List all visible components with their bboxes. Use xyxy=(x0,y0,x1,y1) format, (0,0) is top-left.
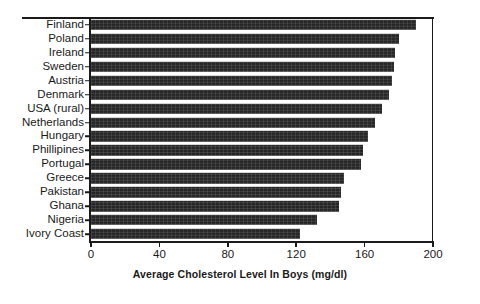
x-tick-label: 80 xyxy=(221,249,234,261)
category-label: Austria xyxy=(48,75,84,87)
category-label: Greece xyxy=(46,173,84,185)
category-label: Nigeria xyxy=(48,214,84,226)
bar-row: Ireland xyxy=(0,46,480,60)
bar xyxy=(91,103,382,113)
bar xyxy=(91,20,416,30)
bar xyxy=(91,215,317,225)
bar-row: Finland xyxy=(0,18,480,32)
bar-row: Ghana xyxy=(0,199,480,213)
cholesterol-bar-chart: FinlandPolandIrelandSwedenAustriaDenmark… xyxy=(0,0,480,304)
bar-row: USA (rural) xyxy=(0,102,480,116)
x-tick-mark xyxy=(227,241,229,247)
category-label: Portugal xyxy=(41,159,84,171)
bar xyxy=(91,117,375,127)
bar xyxy=(91,145,363,155)
category-label: Ireland xyxy=(49,47,84,59)
bar xyxy=(91,187,341,197)
bar-row: Pakistan xyxy=(0,185,480,199)
bar xyxy=(91,34,399,44)
x-tick-label: 120 xyxy=(287,249,306,261)
bar-row: Phillipines xyxy=(0,143,480,157)
x-tick-mark xyxy=(295,241,297,247)
bar-row: Austria xyxy=(0,74,480,88)
x-tick-label: 200 xyxy=(423,249,442,261)
bar-row: Nigeria xyxy=(0,213,480,227)
x-tick-mark xyxy=(364,241,366,247)
bar xyxy=(91,201,339,211)
x-tick-mark xyxy=(90,241,92,247)
bar-row: Ivory Coast xyxy=(0,227,480,241)
bar xyxy=(91,159,361,169)
category-label: Netherlands xyxy=(22,117,84,129)
bar-row: Denmark xyxy=(0,88,480,102)
category-label: Hungary xyxy=(41,131,84,143)
category-label: Poland xyxy=(48,33,84,45)
x-tick-label: 0 xyxy=(88,249,94,261)
x-axis-title: Average Cholesterol Level In Boys (mg/dl… xyxy=(0,268,480,280)
category-label: Ghana xyxy=(49,200,84,212)
x-tick-label: 160 xyxy=(355,249,374,261)
category-label: Sweden xyxy=(42,61,84,73)
bar xyxy=(91,173,344,183)
bar xyxy=(91,229,300,239)
category-label: Ivory Coast xyxy=(26,228,84,240)
bar-row: Netherlands xyxy=(0,116,480,130)
x-axis-ticks: 04080120160200 xyxy=(0,241,480,265)
bar xyxy=(91,76,392,86)
category-label: Pakistan xyxy=(40,186,84,198)
bar-row: Portugal xyxy=(0,157,480,171)
bar-row: Sweden xyxy=(0,60,480,74)
bar xyxy=(91,89,389,99)
bar xyxy=(91,131,368,141)
bar-row: Greece xyxy=(0,171,480,185)
x-tick-mark xyxy=(432,241,434,247)
bar xyxy=(91,48,395,58)
bar-row: Hungary xyxy=(0,130,480,144)
bar-row: Poland xyxy=(0,32,480,46)
category-label: USA (rural) xyxy=(27,103,84,115)
category-label: Denmark xyxy=(37,89,84,101)
category-label: Finland xyxy=(46,19,84,31)
x-tick-label: 40 xyxy=(153,249,166,261)
x-tick-mark xyxy=(159,241,161,247)
bar-rows: FinlandPolandIrelandSwedenAustriaDenmark… xyxy=(0,18,480,241)
category-label: Phillipines xyxy=(32,145,84,157)
bar xyxy=(91,62,394,72)
